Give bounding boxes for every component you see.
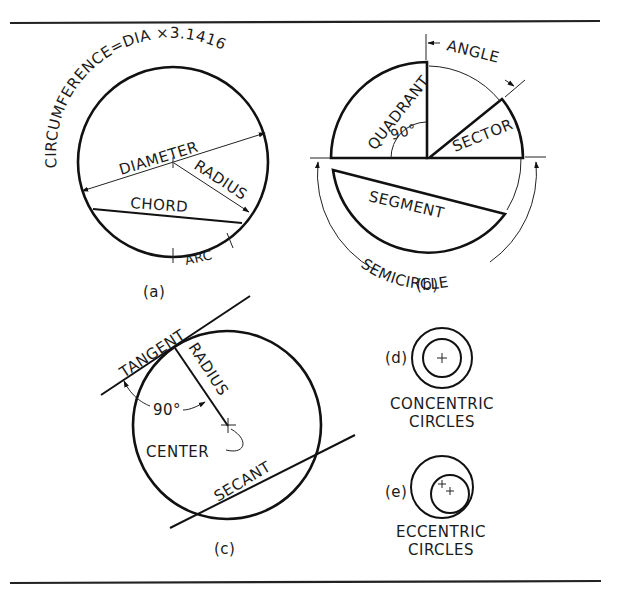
right-angle-arrow-c bbox=[183, 402, 205, 410]
concentric-title-line1: CONCENTRIC bbox=[390, 395, 494, 413]
sector-label: SECTOR bbox=[450, 115, 516, 156]
circumference-label: CIRCUMFERENCE=DIA ×3.1416 bbox=[42, 24, 229, 169]
concentric-title-line2: CIRCLES bbox=[409, 413, 475, 431]
caption-d: (d) bbox=[385, 349, 408, 367]
center-leader bbox=[226, 429, 243, 451]
circle-terminology-diagram: CIRCUMFERENCE=DIA ×3.1416 DIAMETER RADIU… bbox=[0, 0, 625, 604]
panel-a: CIRCUMFERENCE=DIA ×3.1416 DIAMETER RADIU… bbox=[42, 24, 268, 301]
caption-c: (c) bbox=[214, 540, 235, 558]
top-rule bbox=[10, 21, 600, 23]
caption-b: (b) bbox=[416, 276, 439, 294]
caption-e: (e) bbox=[385, 483, 407, 501]
bottom-rule bbox=[10, 581, 601, 583]
radius-label-c: RADIUS bbox=[185, 339, 233, 399]
semicircle-thin-arc bbox=[507, 158, 521, 210]
eccentric-title-line2: CIRCLES bbox=[408, 541, 474, 559]
angle-arrow-right bbox=[505, 80, 514, 86]
arc-label: ARC bbox=[183, 247, 214, 268]
panel-c: TANGENT RADIUS 90° CENTER SECANT (c) bbox=[101, 296, 355, 558]
caption-a: (a) bbox=[143, 283, 165, 301]
panel-e: (e) ECCENTRIC CIRCLES bbox=[385, 456, 486, 559]
eccentric-title-line1: ECCENTRIC bbox=[396, 523, 486, 541]
panel-d: (d) CONCENTRIC CIRCLES bbox=[385, 328, 494, 431]
angle-arc bbox=[429, 66, 500, 101]
segment-label: SEGMENT bbox=[367, 187, 446, 222]
panel-b: ANGLE QUADRANT 90° SECTOR SEGMENT SEMICI… bbox=[310, 34, 546, 294]
center-label: CENTER bbox=[146, 443, 209, 461]
diameter-label: DIAMETER bbox=[117, 138, 200, 179]
angle-90-label-c: 90° bbox=[153, 401, 181, 419]
angle-label: ANGLE bbox=[445, 36, 501, 66]
